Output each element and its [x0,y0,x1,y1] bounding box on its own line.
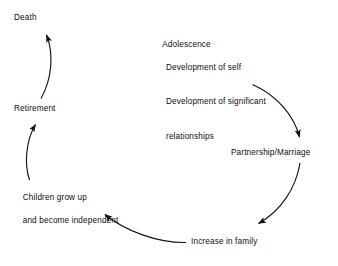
node-adolescence-sub-2: Development of significant [153,96,266,107]
node-adolescence-sub-1: Development of self [153,62,266,73]
arrow-retirement-to-death [41,35,51,99]
node-children-grow-up: Children grow up and become independent [13,181,118,238]
node-adolescence-sub-3: relationships [153,131,266,142]
node-increase-in-family: Increase in family [191,236,257,247]
arrow-children-to-retirement [26,125,35,181]
node-adolescence: Adolescence Development of self Developm… [153,28,266,165]
node-children-line-2: and become independent [23,216,119,225]
node-children-line-1: Children grow up [23,193,87,202]
life-cycle-diagram: Death Retirement Children grow up and be… [0,0,338,266]
arrow-partnership-to-increase-in-family [259,163,301,224]
node-retirement: Retirement [14,103,56,114]
node-death: Death [14,12,37,23]
node-adolescence-title: Adolescence [162,40,211,49]
